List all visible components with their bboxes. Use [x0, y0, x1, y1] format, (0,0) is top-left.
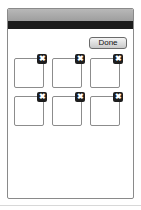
toolbar-bar — [8, 21, 133, 29]
divider — [0, 205, 141, 206]
close-icon[interactable]: ✖ — [75, 92, 85, 102]
close-icon[interactable]: ✖ — [75, 54, 85, 64]
close-icon[interactable]: ✖ — [113, 92, 123, 102]
close-icon[interactable]: ✖ — [37, 92, 47, 102]
title-bar — [8, 9, 133, 21]
close-icon[interactable]: ✖ — [37, 54, 47, 64]
done-button[interactable]: Done — [89, 37, 127, 49]
close-icon[interactable]: ✖ — [113, 54, 123, 64]
edit-panel: Done ✖ ✖ ✖ ✖ ✖ ✖ — [7, 8, 134, 199]
